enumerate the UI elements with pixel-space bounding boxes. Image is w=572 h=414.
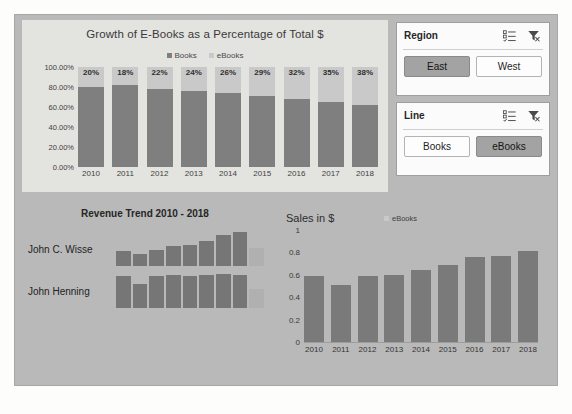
dashboard-canvas: Growth of E-Books as a Percentage of Tot…: [14, 14, 558, 386]
x-axis-tick: 2015: [438, 345, 458, 354]
sales-bar[interactable]: [331, 230, 351, 342]
sparkline-panel-title: Revenue Trend 2010 - 2018: [22, 208, 268, 219]
slicer-item-east[interactable]: East: [404, 56, 470, 77]
x-axis-tick: 2010: [78, 169, 104, 178]
sparkline-bar: [233, 232, 248, 266]
stacked-bar[interactable]: 20%: [78, 67, 104, 167]
revenue-trend-sparklines[interactable]: Revenue Trend 2010 - 2018 John C. Wisse …: [22, 200, 268, 378]
sales-column-chart[interactable]: Sales in $ eBooks 10.80.60.40.20 2010201…: [272, 200, 548, 378]
y-axis-tick: 80.00%: [49, 83, 74, 92]
bar-data-label: 26%: [220, 67, 236, 77]
sparkline-row-label: John C. Wisse: [26, 244, 116, 255]
bar-data-label: 18%: [117, 67, 133, 77]
sales-bar[interactable]: [465, 230, 485, 342]
x-axis-tick: 2018: [352, 169, 378, 178]
x-axis-tick: 2014: [411, 345, 431, 354]
slicer-region[interactable]: Region: [396, 22, 550, 96]
clear-filter-icon[interactable]: [527, 29, 541, 43]
sales-bar[interactable]: [438, 230, 458, 342]
sales-chart-x-axis: 201020112012201320142015201620172018: [304, 345, 538, 354]
sparkline-bar: [199, 275, 214, 308]
stacked-bar[interactable]: 22%: [147, 67, 173, 167]
bar-data-label: 20%: [83, 67, 99, 77]
legend-label-ebooks: eBooks: [392, 214, 417, 223]
stacked-chart-title: Growth of E-Books as a Percentage of Tot…: [22, 28, 388, 40]
x-axis-tick: 2013: [384, 345, 404, 354]
bar-data-label: 22%: [151, 67, 167, 77]
sales-bar-fill: [331, 285, 351, 342]
x-axis-tick: 2016: [284, 169, 310, 178]
sparkline-bar: [216, 235, 231, 266]
slicer-line-items: Books eBooks: [397, 130, 549, 157]
sales-bar[interactable]: [491, 230, 511, 342]
x-axis-tick: 2012: [358, 345, 378, 354]
stacked-bar[interactable]: 24%: [181, 67, 207, 167]
multi-select-icon[interactable]: [503, 29, 517, 43]
clear-filter-icon[interactable]: [527, 109, 541, 123]
sparkline-row-label: John Henning: [26, 286, 116, 297]
slicer-item-ebooks[interactable]: eBooks: [476, 136, 542, 157]
sales-bar-fill: [465, 257, 485, 342]
slicer-region-title: Region: [404, 30, 438, 41]
sales-bar[interactable]: [411, 230, 431, 342]
bar-data-label: 35%: [323, 67, 339, 77]
x-axis-tick: 2017: [491, 345, 511, 354]
x-axis-tick: 2012: [147, 169, 173, 178]
bar-data-label: 38%: [357, 67, 373, 77]
stacked-column-chart[interactable]: Growth of E-Books as a Percentage of Tot…: [22, 20, 388, 192]
sparkline-bar: [199, 241, 214, 266]
bar-segment-books: [249, 96, 275, 167]
bar-segment-books: [352, 105, 378, 167]
sales-bar-fill: [384, 275, 404, 342]
stacked-bar[interactable]: 32%: [284, 67, 310, 167]
slicer-item-books[interactable]: Books: [404, 136, 470, 157]
y-axis-tick: 0.4: [289, 293, 300, 302]
sparkline-bar: [149, 250, 164, 266]
y-axis-tick: 40.00%: [49, 123, 74, 132]
legend-swatch-ebooks: [384, 216, 389, 221]
sales-bar-fill: [411, 270, 431, 342]
sales-bar-fill: [491, 256, 511, 342]
stacked-bar[interactable]: 38%: [352, 67, 378, 167]
sales-bar[interactable]: [384, 230, 404, 342]
y-axis-tick: 20.00%: [49, 143, 74, 152]
bar-segment-ebooks: 29%: [249, 67, 275, 96]
sales-bar[interactable]: [304, 230, 324, 342]
stacked-bar[interactable]: 26%: [215, 67, 241, 167]
sparkline-bar: [133, 254, 148, 266]
bar-segment-books: [147, 89, 173, 167]
sparkline-bar: [133, 284, 148, 308]
sales-bar[interactable]: [518, 230, 538, 342]
bar-segment-books: [318, 102, 344, 167]
x-axis-tick: 2011: [112, 169, 138, 178]
sparkline-bar: [249, 248, 264, 266]
y-axis-tick: 0.2: [289, 315, 300, 324]
y-axis-tick: 0.00%: [53, 163, 74, 172]
multi-select-icon[interactable]: [503, 109, 517, 123]
x-axis-tick: 2014: [215, 169, 241, 178]
x-axis-tick: 2013: [181, 169, 207, 178]
stacked-bar[interactable]: 29%: [249, 67, 275, 167]
sales-bar[interactable]: [358, 230, 378, 342]
sales-chart-plot: 10.80.60.40.20 2010201120122013201420152…: [278, 230, 542, 368]
bar-data-label: 24%: [186, 67, 202, 77]
legend-swatch-ebooks: [209, 53, 214, 58]
stacked-bar[interactable]: 18%: [112, 67, 138, 167]
sparkline-bar: [216, 274, 231, 308]
sales-chart-legend: eBooks: [384, 214, 417, 223]
sparkline-bar: [249, 289, 264, 308]
y-axis-tick: 0.8: [289, 248, 300, 257]
stacked-chart-bars: 20%18%22%24%26%29%32%35%38%: [78, 67, 378, 167]
slicer-line[interactable]: Line: [396, 102, 550, 176]
slicer-line-header: Line: [403, 107, 543, 130]
sparkline-bar: [233, 275, 248, 308]
slicer-line-title: Line: [404, 110, 425, 121]
sparkline-cells-henning: [116, 274, 264, 308]
stacked-bar[interactable]: 35%: [318, 67, 344, 167]
sparkline-bar: [183, 245, 198, 266]
slicer-region-icons: [503, 29, 541, 43]
sales-chart-y-axis: 10.80.60.40.20: [278, 230, 302, 342]
y-axis-tick: 60.00%: [49, 103, 74, 112]
bar-segment-books: [112, 85, 138, 167]
slicer-item-west[interactable]: West: [476, 56, 542, 77]
